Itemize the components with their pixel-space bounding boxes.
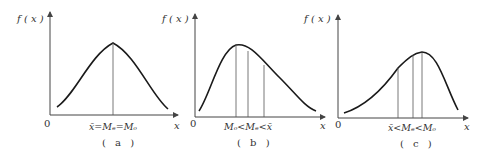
caption-b: ( b ) — [237, 137, 273, 148]
x-axis-label-c: x — [464, 121, 470, 132]
y-axis-label-b: f ( x ) — [162, 13, 189, 24]
symmetric-curve — [57, 43, 168, 109]
caption-a: ( a ) — [102, 137, 137, 148]
panel-b — [195, 14, 325, 117]
origin-label-a: 0 — [44, 118, 50, 129]
relation-label-a: x̄=Mₑ=Mₒ — [89, 121, 137, 132]
x-axis-label-a: x — [174, 120, 180, 131]
relation-label-c: x̄<Mₑ<Mₒ — [388, 122, 436, 133]
right-skewed-curve — [199, 45, 316, 111]
origin-label-c: 0 — [335, 119, 341, 130]
relation-label-b: Mₒ<Mₑ<x̄ — [224, 121, 272, 132]
caption-c: ( c ) — [400, 138, 435, 149]
left-skewed-curve — [344, 52, 458, 113]
panel-a — [50, 12, 178, 115]
y-axis-label-c: f ( x ) — [304, 13, 331, 24]
y-axis-label-a: f ( x ) — [17, 13, 44, 24]
x-axis-label-b: x — [320, 120, 326, 131]
panel-c — [338, 15, 468, 118]
origin-label-b: 0 — [190, 118, 196, 129]
